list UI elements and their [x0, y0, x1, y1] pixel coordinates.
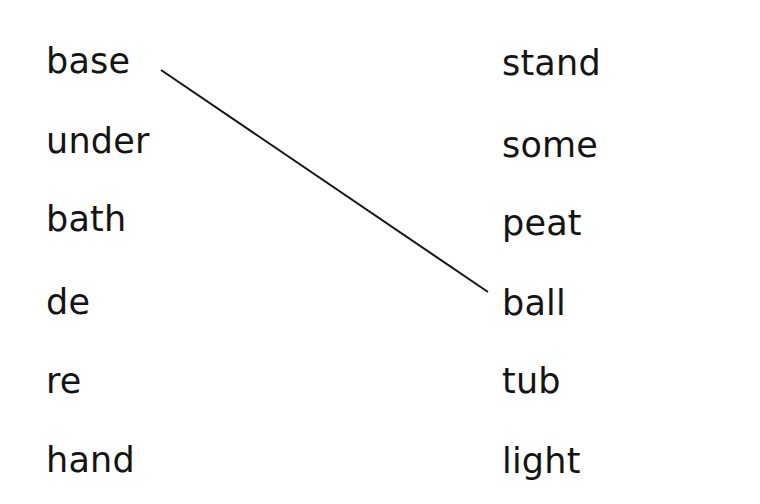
match-line-layer [0, 0, 760, 504]
match-line [161, 70, 488, 292]
